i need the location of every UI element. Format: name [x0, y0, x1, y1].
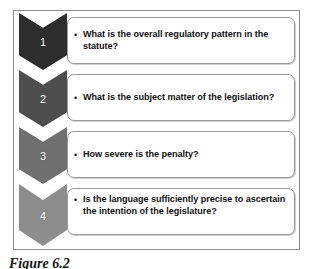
- bullet-icon-4: •: [74, 194, 83, 206]
- chevron-number-2: 2: [40, 94, 46, 105]
- chevron-step-1: 1: [19, 13, 67, 70]
- chevron-number-3: 3: [40, 151, 46, 162]
- figure-caption: Figure 6.2: [9, 256, 70, 269]
- step-row: 2 • What is the subject matter of the le…: [14, 70, 299, 127]
- step-text-2: What is the subject matter of the legisl…: [83, 92, 286, 104]
- chevron-step-3: 3: [19, 127, 67, 184]
- step-row: 3 • How severe is the penalty?: [14, 127, 299, 184]
- bullet-icon-3: •: [74, 149, 83, 161]
- step-row: 4 • Is the language sufficiently precise…: [14, 184, 299, 246]
- bullet-row: • What is the overall regulatory pattern…: [74, 29, 286, 52]
- chevron-step-2: 2: [19, 70, 67, 127]
- step-box-3[interactable]: • How severe is the penalty?: [67, 131, 295, 178]
- step-box-4[interactable]: • Is the language sufficiently precise t…: [67, 188, 295, 235]
- step-text-1: What is the overall regulatory pattern i…: [83, 29, 286, 52]
- chevron-step-4: 4: [19, 184, 67, 246]
- bullet-icon-2: •: [74, 92, 83, 104]
- bullet-row: • What is the subject matter of the legi…: [74, 92, 286, 104]
- step-row: 1 • What is the overall regulatory patte…: [14, 13, 299, 70]
- bullet-row: • Is the language sufficiently precise t…: [74, 194, 286, 217]
- bullet-icon-1: •: [74, 29, 83, 41]
- step-text-4: Is the language sufficiently precise to …: [83, 194, 286, 217]
- chevron-number-4: 4: [40, 211, 46, 222]
- step-box-2[interactable]: • What is the subject matter of the legi…: [67, 74, 295, 121]
- bullet-row: • How severe is the penalty?: [74, 149, 286, 161]
- step-list: 1 • What is the overall regulatory patte…: [14, 11, 299, 249]
- step-text-3: How severe is the penalty?: [83, 149, 286, 161]
- step-box-1[interactable]: • What is the overall regulatory pattern…: [67, 17, 295, 64]
- chevron-number-1: 1: [40, 37, 46, 48]
- figure-frame: 1 • What is the overall regulatory patte…: [13, 10, 300, 250]
